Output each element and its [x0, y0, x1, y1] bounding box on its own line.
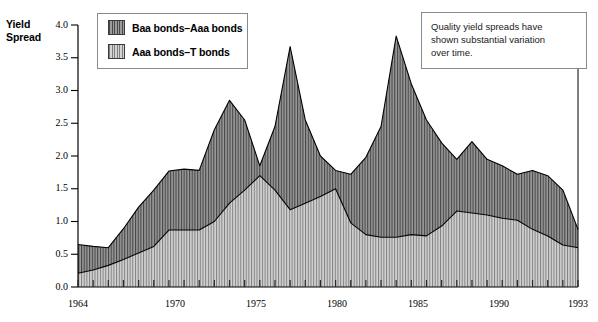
yield-spread-chart: Yield Spread 4.0 3.5 3.0 2.5 2.0 1.5 1.0… [0, 0, 598, 322]
legend-label: Baa bonds–Aaa bonds [132, 22, 242, 34]
legend-swatch-aaa-t-icon [108, 44, 125, 59]
annotation-text: Quality yield spreads have shown substan… [431, 20, 577, 59]
legend-label: Aaa bonds–T bonds [132, 46, 230, 58]
legend-item-aaa-t: Aaa bonds–T bonds [108, 44, 230, 59]
legend-swatch-baa-aaa-icon [108, 20, 125, 35]
annotation-box: Quality yield spreads have shown substan… [421, 12, 587, 69]
legend-item-baa-aaa: Baa bonds–Aaa bonds [108, 20, 242, 35]
